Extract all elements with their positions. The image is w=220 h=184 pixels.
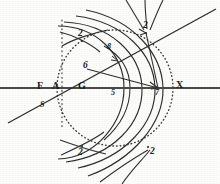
label-two-bottom-left: 2: [78, 148, 83, 158]
label-f: F: [37, 81, 43, 91]
label-five: 5: [111, 89, 115, 97]
label-g: G: [78, 81, 86, 91]
label-x: X: [176, 80, 183, 90]
label-six: 6: [83, 61, 88, 71]
arc-fan-bottom-1: [100, 150, 148, 182]
point-two-tr-dot: [145, 32, 147, 34]
label-seven: 7: [155, 89, 159, 97]
label-two-top-right: 2: [143, 21, 148, 31]
construction-drawing: [0, 0, 220, 184]
label-s: S: [40, 101, 44, 109]
label-two-bottom-right: 2: [150, 147, 155, 157]
figure-root: F A G X S 6 8 5 7 2 2 2 2: [0, 0, 220, 184]
arc-fan-top-3: [150, 0, 163, 30]
point-two-tl-dot: [81, 40, 83, 42]
point-two-br-dot: [147, 146, 149, 148]
label-a: A: [52, 81, 59, 91]
arc-fan-top-1: [126, 0, 144, 30]
label-two-top-left: 2: [78, 29, 83, 39]
label-eight: 8: [107, 43, 111, 51]
